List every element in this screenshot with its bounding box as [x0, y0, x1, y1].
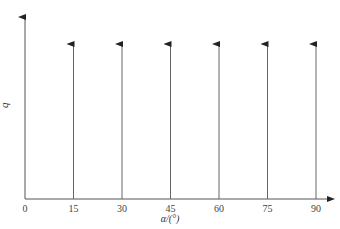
x-tick-15: 15: [69, 203, 79, 214]
x-tick-30: 30: [117, 203, 127, 214]
x-tick-0: 0: [23, 203, 28, 214]
y-axis-label: q: [0, 102, 10, 108]
x-tick-90: 90: [311, 203, 321, 214]
x-tick-75: 75: [263, 203, 273, 214]
chart: 0153045607590 q α/(°): [0, 0, 340, 229]
force-arrows: [74, 44, 317, 199]
x-axis-label: α/(°): [161, 213, 180, 225]
x-tick-60: 60: [214, 203, 224, 214]
